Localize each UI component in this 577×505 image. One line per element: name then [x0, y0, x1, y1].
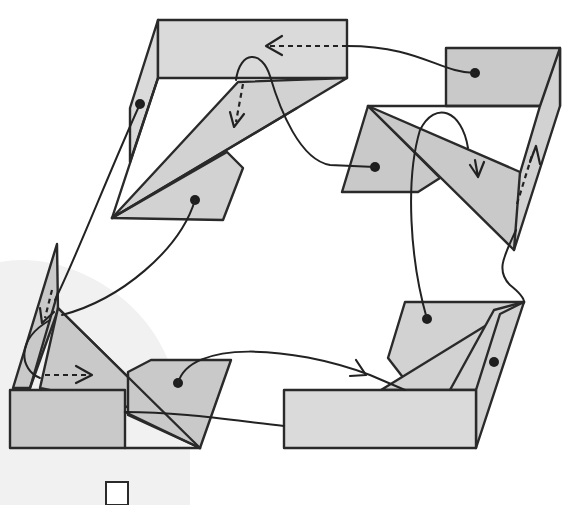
bottom-panel — [284, 390, 476, 448]
stage-bottom-right — [284, 302, 524, 448]
stage-top-left — [112, 20, 347, 220]
folding-diagram — [0, 0, 577, 505]
stage-top-right — [342, 48, 560, 250]
front-panel — [10, 390, 125, 448]
dot-marker — [489, 357, 499, 367]
top-panel — [158, 20, 347, 78]
diagram-canvas — [0, 0, 577, 505]
